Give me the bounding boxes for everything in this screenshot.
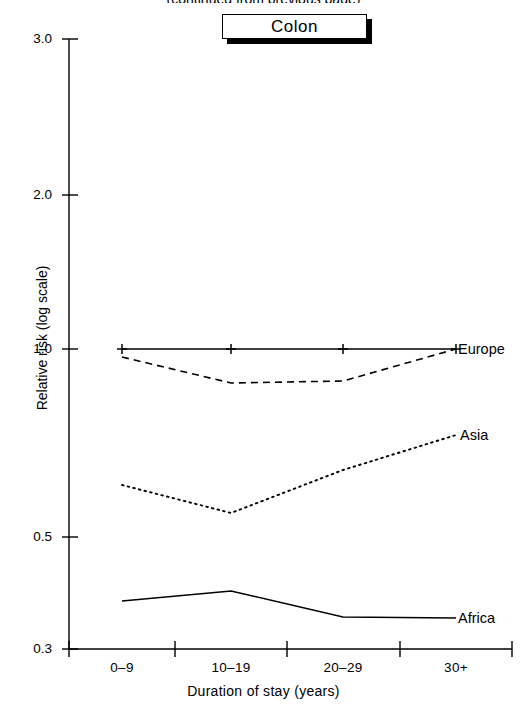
chart-title: Colon [271, 18, 318, 35]
x-tick-label-3: 30+ [401, 660, 511, 675]
series-label-africa: Africa [458, 610, 495, 626]
x-tick-label-2: 20–29 [288, 660, 398, 675]
series-line-africa [122, 591, 456, 618]
x-tick-label-1: 10–19 [176, 660, 286, 675]
y-tick-label-4: 0.3 [10, 641, 52, 656]
plot-area [0, 0, 527, 718]
y-tick-label-3: 0.5 [10, 529, 52, 544]
series-label-asia: Asia [460, 427, 488, 443]
chart-title-plaque: Colon [222, 14, 367, 39]
series-label-europe: Europe [458, 341, 505, 357]
y-tick-label-0: 3.0 [10, 31, 52, 46]
supertitle-clipped: (continued from previous page) [0, 0, 527, 3]
series-line-europe-dashed [122, 349, 456, 383]
x-tick-label-0: 0–9 [67, 660, 177, 675]
y-axis-label: Relative risk (log scale) [34, 248, 50, 428]
chart-container: (continued from previous page) Colon [0, 0, 527, 718]
x-axis-label: Duration of stay (years) [0, 683, 527, 699]
y-tick-label-1: 2.0 [10, 187, 52, 202]
series-line-asia [122, 435, 456, 513]
